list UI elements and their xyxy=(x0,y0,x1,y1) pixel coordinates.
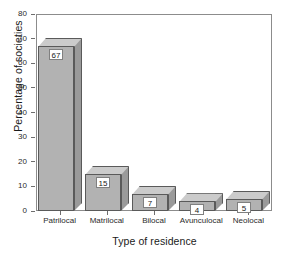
y-tick-label: 30 xyxy=(0,131,27,143)
x-tick-label: Avunculocal xyxy=(178,215,225,226)
y-tick-mark xyxy=(31,211,35,212)
bar-value-label: 5 xyxy=(237,202,251,213)
x-axis-title: Type of residence xyxy=(36,235,273,247)
y-tick-label: 60 xyxy=(0,57,27,69)
bar-value-label: 67 xyxy=(49,49,63,60)
y-tick-mark xyxy=(31,161,35,162)
bar-side-face xyxy=(74,38,82,211)
bar-front-face xyxy=(38,46,74,211)
y-tick-mark xyxy=(31,186,35,187)
x-tick-label: Bilocal xyxy=(130,215,177,226)
y-tick-label: 40 xyxy=(0,107,27,119)
y-tick-label: 10 xyxy=(0,180,27,192)
bar-value-label: 15 xyxy=(96,177,110,188)
y-tick-mark xyxy=(31,38,35,39)
y-tick-label: 20 xyxy=(0,156,27,168)
bar xyxy=(38,38,82,211)
y-tick-mark xyxy=(31,112,35,113)
y-tick-label: 0 xyxy=(0,205,27,217)
y-tick-mark xyxy=(31,137,35,138)
bar-chart-figure: Percentage of societies Type of residenc… xyxy=(0,0,285,260)
y-tick-mark xyxy=(31,87,35,88)
x-tick-label: Matrilocal xyxy=(83,215,130,226)
y-tick-label: 50 xyxy=(0,82,27,94)
x-tick-label: Neolocal xyxy=(225,215,272,226)
bar-value-label: 4 xyxy=(190,204,204,215)
bar-value-label: 7 xyxy=(143,197,157,208)
x-tick-label: Patrilocal xyxy=(36,215,83,226)
y-tick-mark xyxy=(31,63,35,64)
y-tick-label: 80 xyxy=(0,8,27,20)
y-tick-mark xyxy=(31,14,35,15)
y-tick-label: 70 xyxy=(0,33,27,45)
